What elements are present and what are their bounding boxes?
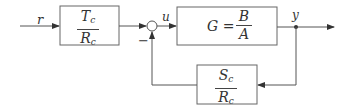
control-signal-label: u — [162, 10, 170, 24]
fb-den-sub: c — [229, 96, 234, 106]
minus-sign: − — [138, 33, 149, 48]
plant-den: A — [239, 27, 249, 42]
fb-num-sub: c — [228, 74, 233, 84]
ff-num-sub: c — [90, 15, 95, 25]
ff-den-sub: c — [91, 37, 96, 47]
output-signal-label: y — [292, 8, 299, 22]
feedback-block: Sc Rc — [215, 68, 237, 109]
plant-block: B A — [236, 9, 252, 42]
diagram-lines — [0, 0, 353, 111]
plant-prefix: G = — [207, 18, 234, 34]
fb-num: S — [219, 67, 229, 83]
input-signal-label: r — [37, 12, 43, 27]
plant-num: B — [239, 9, 249, 24]
feedforward-block: Tc Rc — [77, 9, 99, 50]
ff-num: T — [81, 8, 90, 24]
ff-den: R — [80, 30, 91, 46]
fb-den: R — [218, 89, 229, 105]
